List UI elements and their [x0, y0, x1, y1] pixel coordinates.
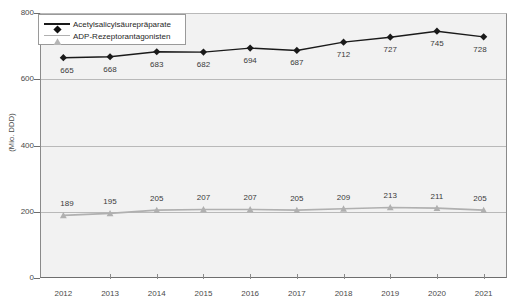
data-point-label: 205: [137, 194, 177, 203]
data-point-label: 687: [277, 58, 317, 67]
diamond-marker-icon: [44, 18, 70, 30]
data-point-label: 205: [447, 194, 487, 203]
x-axis-tick-label: 2018: [324, 289, 364, 298]
data-point-label: 694: [230, 56, 270, 65]
chart-legend: Acetylsalicylsäurepräparate ADP-Rezeptor…: [38, 14, 186, 45]
x-axis-tickmark: [157, 274, 158, 279]
y-axis-tickmark: [34, 146, 40, 147]
x-axis-tickmark: [297, 274, 298, 279]
legend-item-secondary[interactable]: ADP-Rezeptorantagonisten: [44, 30, 180, 42]
x-axis-tick-label: 2020: [417, 289, 457, 298]
y-axis-tick-labels: 0200400600800: [8, 0, 34, 308]
data-point-label: 207: [230, 193, 270, 202]
x-axis-tickmark: [250, 274, 251, 279]
gridline: [41, 146, 506, 147]
data-point-label: 682: [183, 60, 223, 69]
y-axis-tick-label: 0: [10, 274, 34, 282]
y-axis-tick-label: 600: [10, 75, 34, 83]
y-axis-tick-label: 200: [10, 208, 34, 216]
data-point-label: 683: [137, 60, 177, 69]
y-axis-tickmark: [34, 13, 40, 14]
data-point-label: 205: [277, 194, 317, 203]
y-axis-tickmark: [34, 79, 40, 80]
x-axis-tick-label: 2014: [137, 289, 177, 298]
legend-item-primary[interactable]: Acetylsalicylsäurepräparate: [44, 18, 180, 30]
x-axis-tick-label: 2019: [370, 289, 410, 298]
plot-area: [40, 13, 507, 278]
y-axis-tick-label: 400: [10, 142, 34, 150]
data-point-label: 727: [370, 45, 410, 54]
gridline: [41, 212, 506, 213]
x-axis-tick-label: 2017: [277, 289, 317, 298]
x-axis-tick-label: 2016: [230, 289, 270, 298]
gridline: [41, 79, 506, 80]
data-point-label: 728: [447, 45, 487, 54]
data-point-label: 207: [183, 193, 223, 202]
x-axis-tick-label: 2013: [90, 289, 130, 298]
data-point-label: 213: [370, 191, 410, 200]
data-point-label: 209: [324, 193, 364, 202]
x-axis-tickmark: [203, 274, 204, 279]
x-axis-tick-label: 2021: [464, 289, 504, 298]
legend-label-secondary: ADP-Rezeptorantagonisten: [70, 32, 170, 41]
x-axis-tick-label: 2012: [43, 289, 83, 298]
data-point-label: 668: [90, 65, 130, 74]
x-axis-tickmark: [344, 274, 345, 279]
y-axis-tick-label: 800: [10, 9, 34, 17]
data-point-label: 195: [90, 197, 130, 206]
x-axis-tickmark: [110, 274, 111, 279]
legend-label-primary: Acetylsalicylsäurepräparate: [70, 20, 171, 29]
line-chart: (Mio. DDD) 0200400600800 Acetylsalicylsä…: [0, 0, 526, 308]
triangle-marker-icon: [44, 30, 70, 42]
x-axis-tick-label: 2015: [183, 289, 223, 298]
x-axis-tickmark: [484, 274, 485, 279]
y-axis-tickmark: [34, 278, 40, 279]
x-axis-tickmark: [437, 274, 438, 279]
y-axis-tickmark: [34, 212, 40, 213]
x-axis-tickmark: [390, 274, 391, 279]
data-point-label: 712: [324, 50, 364, 59]
